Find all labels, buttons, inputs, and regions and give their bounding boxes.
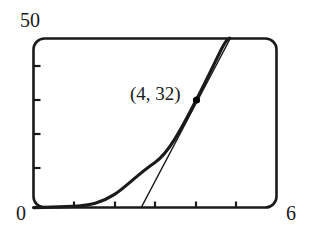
point-annotation-label: (4, 32) <box>130 84 181 103</box>
graph-figure: 50 0 6 (4, 32) <box>0 0 312 232</box>
plot-area <box>0 0 312 232</box>
function-curve <box>34 38 230 207</box>
x-axis-max-label: 6 <box>286 203 296 223</box>
origin-label: 0 <box>16 203 26 223</box>
point-marker <box>193 96 200 103</box>
y-axis-max-label: 50 <box>20 10 40 30</box>
